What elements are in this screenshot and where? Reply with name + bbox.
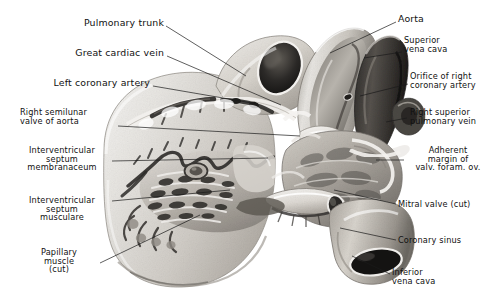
label-line: membranaceum (14, 163, 110, 172)
label-inferior-vena-cava: Inferiorvena cava (392, 268, 476, 285)
label-line: musculare (14, 213, 110, 222)
label-line: pulmonary vein (410, 117, 490, 126)
label-right-superior-pulmonary-vein: Right superiorpulmonary vein (410, 108, 490, 125)
label-papillary-muscle-cut: Papillarymuscle(cut) (20, 248, 98, 274)
label-line: Aorta (398, 14, 486, 24)
label-line: Great cardiac vein (40, 48, 164, 58)
label-line: vena cava (404, 45, 488, 54)
label-interventricular-septum-musculare: Interventricularseptummusculare (14, 196, 110, 222)
label-mitral-valve-cut: Mitral valve (cut) (398, 200, 488, 209)
label-adherent-margin-of-valv-foram-ov: Adherentmargin ofvalv. foram. ov. (406, 146, 490, 172)
label-aorta: Aorta (398, 14, 486, 24)
label-line: valve of aorta (20, 117, 116, 126)
label-line: Left coronary artery (22, 78, 150, 88)
label-interventricular-septum-membranaceum: Interventricularseptummembranaceum (14, 146, 110, 172)
label-superior-vena-cava: Superiorvena cava (404, 36, 488, 53)
label-line: Coronary sinus (398, 236, 484, 245)
label-line: coronary artery (410, 81, 490, 90)
papillary-muscle-cut-face (185, 163, 208, 179)
label-line: (cut) (20, 265, 98, 274)
label-line: vena cava (392, 277, 476, 286)
label-great-cardiac-vein: Great cardiac vein (40, 48, 164, 58)
label-line: Pulmonary trunk (58, 18, 164, 28)
label-line: Mitral valve (cut) (398, 200, 488, 209)
label-line: valv. foram. ov. (406, 163, 490, 172)
label-pulmonary-trunk: Pulmonary trunk (58, 18, 164, 28)
label-right-semilunar-valve-of-aorta: Right semilunarvalve of aorta (20, 108, 116, 125)
label-left-coronary-artery: Left coronary artery (22, 78, 150, 88)
label-coronary-sinus: Coronary sinus (398, 236, 484, 245)
label-orifice-of-right-coronary-artery: Orifice of rightcoronary artery (410, 72, 490, 89)
figure-canvas: Pulmonary trunkGreat cardiac veinLeft co… (0, 0, 491, 304)
